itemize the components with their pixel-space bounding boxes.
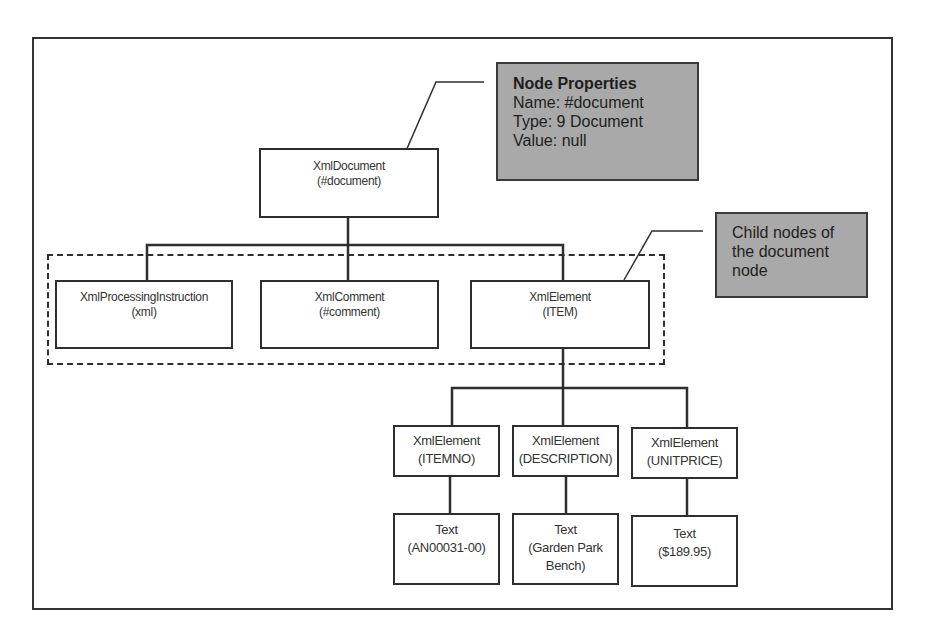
callout-title: Node Properties — [513, 74, 697, 93]
node-element-unitprice: XmlElement (UNITPRICE) — [631, 427, 738, 479]
property-name: Name: #document — [513, 93, 697, 112]
node-name: (ITEMNO) — [395, 450, 498, 468]
property-type: Type: 9 Document — [513, 112, 697, 131]
node-name: (UNITPRICE) — [633, 452, 736, 470]
node-value: (Garden Park — [514, 539, 617, 557]
node-type: Text — [395, 521, 498, 539]
property-value: Value: null — [513, 131, 697, 150]
node-name: (#comment) — [262, 305, 437, 320]
callout-line: Child nodes of — [732, 223, 866, 242]
node-element-item: XmlElement (ITEM) — [470, 280, 650, 349]
node-type: XmlElement — [395, 432, 498, 450]
node-type: XmlElement — [514, 432, 617, 450]
node-value: (AN00031-00) — [395, 539, 498, 557]
node-value: ($189.95) — [633, 543, 736, 561]
node-type: XmlElement — [633, 434, 736, 452]
node-text-itemno: Text (AN00031-00) — [393, 513, 500, 585]
node-comment: XmlComment (#comment) — [260, 280, 439, 349]
node-type: XmlElement — [472, 290, 648, 305]
node-type: XmlProcessingInstruction — [57, 290, 231, 305]
node-type: XmlComment — [262, 290, 437, 305]
node-type: XmlDocument — [261, 159, 437, 174]
node-name: (ITEM) — [472, 305, 648, 320]
node-value: Bench) — [514, 557, 617, 575]
node-text-description: Text (Garden Park Bench) — [512, 513, 619, 585]
node-element-description: XmlElement (DESCRIPTION) — [512, 425, 619, 477]
node-element-itemno: XmlElement (ITEMNO) — [393, 425, 500, 477]
node-name: (DESCRIPTION) — [514, 450, 617, 468]
node-processing-instruction: XmlProcessingInstruction (xml) — [55, 280, 233, 349]
callout-line: the document — [732, 242, 866, 261]
callout-line: node — [732, 261, 866, 280]
node-text-unitprice: Text ($189.95) — [631, 515, 738, 587]
node-type: Text — [633, 525, 736, 543]
node-xml-document: XmlDocument (#document) — [259, 148, 439, 218]
node-name: (xml) — [57, 305, 231, 320]
node-properties-callout: Node Properties Name: #document Type: 9 … — [496, 62, 699, 181]
node-name: (#document) — [261, 174, 437, 189]
child-nodes-callout: Child nodes of the document node — [715, 212, 868, 298]
node-type: Text — [514, 521, 617, 539]
